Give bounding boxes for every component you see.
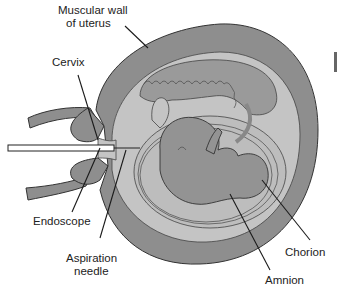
label-cervix: Cervix xyxy=(52,56,85,68)
edge-mark xyxy=(334,52,337,72)
fetoscopy-diagram: Muscular wall of uterus Cervix Endoscope… xyxy=(0,0,339,296)
label-muscular-wall-1: Muscular wall xyxy=(58,4,128,16)
label-muscular-wall-2: of uterus xyxy=(66,17,111,29)
leader-muscular-wall xyxy=(125,26,148,48)
endoscope-tube xyxy=(8,145,114,151)
label-amnion: Amnion xyxy=(265,274,304,286)
label-aspiration-1: Aspiration xyxy=(66,252,117,264)
label-endoscope: Endoscope xyxy=(33,215,91,227)
label-aspiration-2: needle xyxy=(74,265,109,277)
label-chorion: Chorion xyxy=(285,246,325,258)
